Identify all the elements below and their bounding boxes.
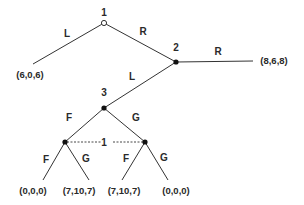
info-set-label: 1 <box>101 137 107 148</box>
edge-label-n3-right: G <box>132 112 140 123</box>
edge-label-n1b-right: G <box>160 152 168 163</box>
node-1-root <box>101 20 106 25</box>
payoff-n2-right: (8,6,8) <box>260 55 287 66</box>
node-1b <box>142 139 147 144</box>
payoff-fg: (7,10,7) <box>63 185 96 196</box>
node-1-label: 1 <box>101 7 107 18</box>
edge-n2-right <box>176 61 253 62</box>
edge-label-n2-left: L <box>129 71 135 82</box>
node-2-label: 2 <box>173 42 179 53</box>
edge-label-n1-right: R <box>139 26 147 37</box>
game-tree: 1 1 2 3 L R R L F G F G F G (6,0,6) (8,6… <box>0 0 304 205</box>
payoff-n1-left: (6,0,6) <box>16 69 43 80</box>
node-1a <box>62 139 67 144</box>
edge-label-n1a-left: F <box>43 154 49 165</box>
edge-label-n1a-right: G <box>82 153 90 164</box>
payoff-ff: (0,0,0) <box>19 185 46 196</box>
edge-label-n1b-left: F <box>123 153 129 164</box>
edge-label-n1-left: L <box>64 28 70 39</box>
node-3 <box>101 105 106 110</box>
edge-label-n2-right: R <box>214 46 222 57</box>
payoff-gg: (0,0,0) <box>162 185 189 196</box>
node-2 <box>173 59 178 64</box>
node-3-label: 3 <box>101 87 107 98</box>
edge-label-n3-left: F <box>66 112 72 123</box>
payoff-gf: (7,10,7) <box>108 185 141 196</box>
edge-n2-left <box>104 62 176 108</box>
